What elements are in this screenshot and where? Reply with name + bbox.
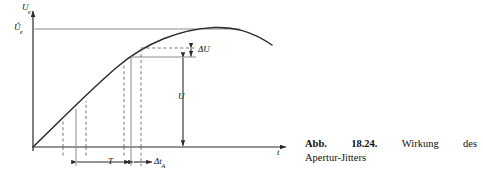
aperture-jitter-label-subscript: A <box>161 162 165 169</box>
caption-line-1: Abb. 18.24. Wirkung des <box>305 137 477 151</box>
figure-svg <box>0 0 292 185</box>
peak-level-label-subscript: e <box>20 28 23 35</box>
caption-figure-number: 18.24. <box>351 137 377 151</box>
figure-page: Ue Ûe t ΔU U T ΔtA Abb. 18.24. Wirkung d… <box>0 0 483 185</box>
peak-level-label: Ûe <box>14 23 23 34</box>
figure-caption: Abb. 18.24. Wirkung des Apertur-Jitters <box>305 137 477 164</box>
aperture-jitter-label: ΔtA <box>154 157 166 168</box>
figure-apertur-jitter: Ue Ûe t ΔU U T ΔtA <box>0 0 292 185</box>
caption-line-2: Apertur-Jitters <box>305 151 477 165</box>
period-label: T <box>108 157 113 166</box>
y-axis-label: Ue <box>22 3 31 14</box>
u-label: U <box>178 92 185 101</box>
delta-u-label: ΔU <box>198 45 210 54</box>
caption-word-wirkung: Wirkung <box>402 137 439 151</box>
signal-curve <box>33 27 272 147</box>
x-axis-label: t <box>277 148 280 157</box>
y-axis-label-subscript: e <box>28 8 31 15</box>
caption-figure-word: Abb. <box>305 137 327 151</box>
caption-word-des: des <box>463 137 477 151</box>
